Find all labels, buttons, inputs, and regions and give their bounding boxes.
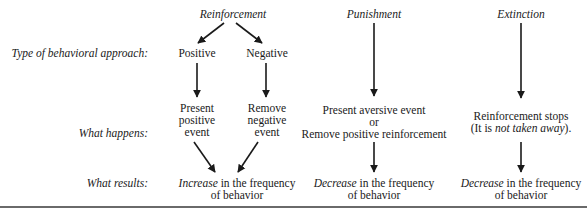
arrow-positive-converge	[194, 142, 215, 172]
arrow-to-negative	[236, 23, 262, 43]
arrow-to-positive	[198, 23, 224, 43]
bottom-rule	[0, 206, 587, 208]
arrow-negative-converge	[238, 142, 258, 172]
arrows-layer	[0, 0, 587, 217]
